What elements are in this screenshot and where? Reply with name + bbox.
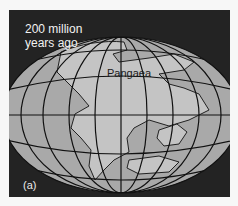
title-line-2: years ago xyxy=(25,36,82,50)
continent-label: Pangaea xyxy=(107,67,151,79)
map-panel: 200 million years ago Pangaea (a) xyxy=(9,10,230,197)
title-line-1: 200 million xyxy=(25,22,82,36)
panel-label: (a) xyxy=(23,179,36,191)
figure-title: 200 million years ago xyxy=(25,22,82,50)
